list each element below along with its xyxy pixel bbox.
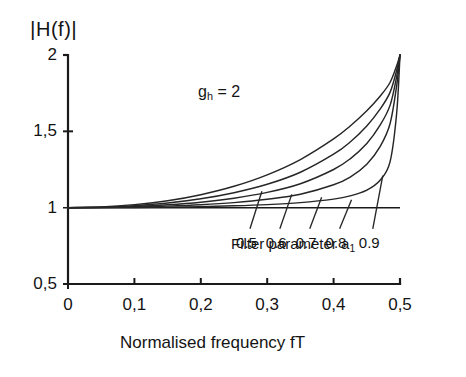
y-tick-label-1,5: 1,5 (0, 122, 57, 139)
gain-annotation-symbol: g (198, 83, 207, 100)
curve-label-0.9: 0.9 (359, 235, 380, 250)
y-axis-title-bar-left: | (30, 18, 36, 39)
x-tick-label-0: 0 (38, 296, 98, 313)
y-axis-title-bar-right: | (71, 18, 77, 39)
gain-annotation: gh = 2 (198, 84, 240, 102)
x-tick-label-0,2: 0,2 (171, 296, 231, 313)
curve-label-0.7: 0.7 (296, 235, 317, 250)
x-axis-title: Normalised frequency fT (120, 334, 305, 351)
curve-a1-0.6 (68, 55, 400, 208)
leader-line-0.5 (250, 191, 262, 229)
curve-a1-0.5 (68, 55, 400, 208)
curve-label-0.6: 0.6 (266, 235, 287, 250)
x-tick-label-0,5: 0,5 (370, 296, 430, 313)
y-axis-title-text: H(f) (36, 18, 71, 40)
chart-canvas (0, 0, 466, 377)
curve-a1-0.7 (68, 55, 400, 208)
curve-a1-0.9 (68, 55, 400, 208)
curve-label-0.5: 0.5 (236, 235, 257, 250)
legend-caption-subscript: 1 (349, 243, 355, 254)
leader-line-0.6 (280, 194, 292, 228)
curve-a1-0.8 (68, 55, 400, 208)
y-axis-title: |H(f)| (30, 18, 77, 39)
chart-figure: |H(f)| gh = 2 Filter parameter a1 Normal… (0, 0, 466, 377)
x-tick-label-0,1: 0,1 (104, 296, 164, 313)
y-tick-label-1: 1 (0, 199, 57, 216)
curve-label-0.8: 0.8 (326, 235, 347, 250)
leader-line-0.8 (340, 200, 352, 229)
curve-series (68, 55, 400, 208)
y-tick-label-0,5: 0,5 (0, 275, 57, 292)
x-tick-label-0,3: 0,3 (237, 296, 297, 313)
gain-annotation-value: = 2 (213, 83, 240, 100)
x-tick-label-0,4: 0,4 (304, 296, 364, 313)
y-tick-label-2: 2 (0, 46, 57, 63)
